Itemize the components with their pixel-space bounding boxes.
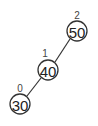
tree-node-30: 0 30 [10,83,30,114]
edge-40-30 [27,78,41,96]
node-height-label: 1 [42,48,48,59]
node-height-label: 0 [17,83,23,94]
node-value: 30 [12,97,29,114]
node-height-label: 2 [74,10,80,21]
node-value: 50 [69,24,86,41]
edge-50-40 [55,39,70,62]
tree-node-40: 1 40 [38,48,58,80]
node-value: 40 [40,63,57,80]
tree-node-50: 2 50 [67,10,87,41]
tree-diagram: 2 50 1 40 0 30 [0,0,98,126]
